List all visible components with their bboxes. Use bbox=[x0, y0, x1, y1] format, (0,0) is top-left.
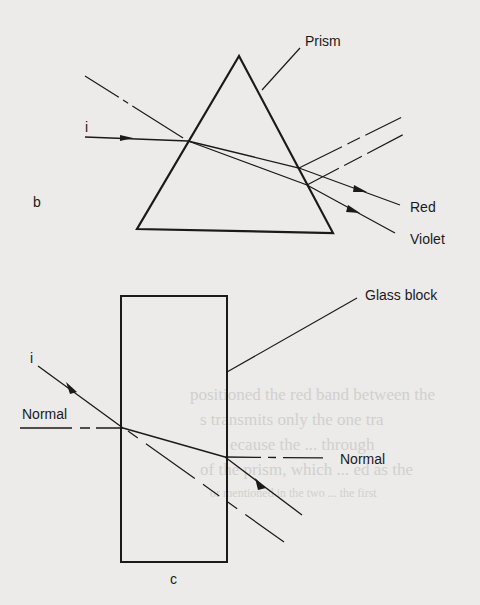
refracted-ray bbox=[123, 428, 225, 457]
prism-shape bbox=[137, 56, 333, 233]
arrow-icon bbox=[353, 185, 367, 192]
incident-label-c: i bbox=[30, 350, 33, 366]
prism-label: Prism bbox=[305, 33, 341, 49]
glass-block-shape bbox=[121, 296, 227, 562]
incident-extension-dashed bbox=[85, 76, 188, 141]
panel-label-b: b bbox=[33, 194, 41, 210]
glass-block-leader-line bbox=[227, 298, 357, 372]
normal-right-line bbox=[225, 457, 327, 458]
refraction-diagram: Prism i b Red Violet Glass block i Norma… bbox=[0, 0, 480, 605]
prism-leader-line bbox=[262, 48, 300, 90]
glass-block-label: Glass block bbox=[365, 287, 438, 303]
arrow-icon bbox=[255, 478, 266, 490]
arrow-icon bbox=[120, 135, 133, 141]
panel-label-c: c bbox=[170, 571, 177, 587]
normal-left-label: Normal bbox=[22, 406, 67, 422]
panel-c-glass-block bbox=[20, 296, 357, 562]
red-label: Red bbox=[410, 199, 436, 215]
red-extension-dashed bbox=[299, 117, 402, 168]
red-ray bbox=[188, 141, 400, 205]
incident-label-b: i bbox=[85, 119, 88, 135]
panel-b-prism bbox=[85, 48, 410, 233]
arrow-icon bbox=[346, 205, 360, 213]
normal-right-label: Normal bbox=[340, 451, 385, 467]
violet-label: Violet bbox=[410, 231, 445, 247]
incident-ray-b bbox=[85, 137, 188, 141]
